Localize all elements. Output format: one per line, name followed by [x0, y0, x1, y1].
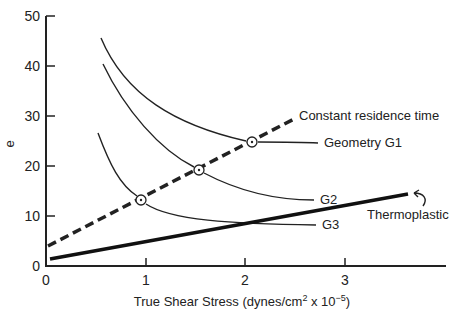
annotation-g2: G2 — [320, 192, 337, 207]
y-tick-label: 40 — [24, 58, 40, 74]
curve-g2 — [103, 64, 314, 200]
x-tick-label: 0 — [42, 272, 50, 288]
annotation-g3: G3 — [322, 217, 339, 232]
circle-dot-marker — [136, 195, 146, 205]
x-tick-label: 1 — [142, 272, 150, 288]
y-tick-label: 50 — [24, 8, 40, 24]
thermoplastic-arrow-icon — [414, 190, 425, 206]
x-tick-label: 2 — [241, 272, 249, 288]
annotation-constant-residence-time: Constant residence time — [299, 108, 439, 123]
y-axis-label: e — [2, 140, 17, 147]
y-tick-label: 30 — [24, 108, 40, 124]
x-ticks — [146, 258, 345, 266]
constant-residence-time-line — [48, 118, 296, 246]
chart: 0 10 20 30 40 50 0 1 2 3 e True Shear St… — [0, 0, 454, 322]
curve-g1 — [101, 38, 318, 143]
thermoplastic-line — [50, 194, 408, 259]
circle-dot-marker — [247, 137, 257, 147]
annotation-thermoplastic: Thermoplastic — [367, 207, 449, 222]
curve-g3 — [98, 133, 316, 225]
y-tick-label: 20 — [24, 158, 40, 174]
y-tick-label: 0 — [32, 258, 40, 274]
y-ticks — [46, 16, 55, 216]
circle-dot-marker — [194, 165, 204, 175]
x-tick-label: 3 — [341, 272, 349, 288]
y-tick-label: 10 — [24, 208, 40, 224]
x-axis-label: True Shear Stress (dynes/cm2 x 10−5) — [134, 293, 350, 309]
annotation-geometry-g1: Geometry G1 — [324, 135, 402, 150]
